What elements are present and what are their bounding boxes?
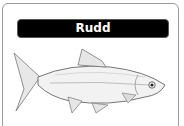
rudd-fish-icon bbox=[10, 45, 170, 115]
fish-name-banner: Rudd bbox=[17, 19, 169, 38]
